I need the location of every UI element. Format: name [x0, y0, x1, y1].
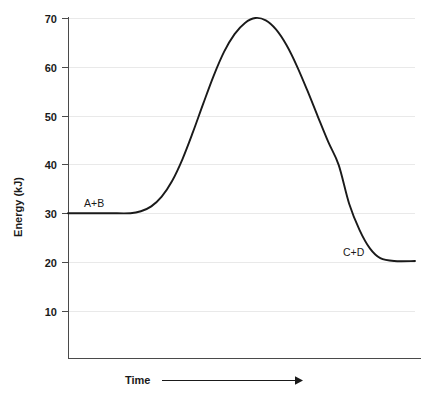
- y-tick-label-50: 50: [45, 111, 57, 123]
- x-axis-title: Time: [125, 374, 150, 386]
- y-tick-label-40: 40: [45, 159, 57, 171]
- y-tick-label-60: 60: [45, 62, 57, 74]
- y-tick-label-70: 70: [45, 13, 57, 25]
- y-tick-label-30: 30: [45, 208, 57, 220]
- chart-background: [0, 0, 422, 395]
- y-tick-label-10: 10: [45, 306, 57, 318]
- chart-canvas: 10203040506070 Energy (kJ) Time A+B C+D: [0, 0, 422, 395]
- products-label: C+D: [343, 246, 365, 258]
- energy-profile-chart: 10203040506070 Energy (kJ) Time A+B C+D: [0, 0, 422, 395]
- reactants-label: A+B: [84, 197, 104, 209]
- y-axis-title: Energy (kJ): [12, 177, 24, 237]
- y-tick-label-20: 20: [45, 257, 57, 269]
